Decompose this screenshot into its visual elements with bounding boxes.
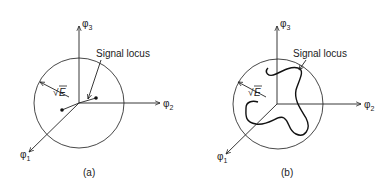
- signal-vector-1-a: [62, 103, 79, 110]
- svg-text:E: E: [254, 87, 261, 98]
- signal-vector-2-a: [79, 98, 96, 103]
- signal-locus-label-b: Signal locus: [293, 48, 347, 59]
- signal-point-2-a: [94, 96, 98, 100]
- phi1-label-a: φ1: [20, 149, 30, 162]
- caption-b: (b): [281, 167, 293, 178]
- sqrt-e-label-b: √ E: [248, 86, 262, 98]
- panel-b: φ3 φ2 φ1 Signal locus √ E (b): [217, 18, 374, 178]
- phi3-label-b: φ3: [280, 18, 290, 31]
- phi1-label-b: φ1: [217, 151, 227, 164]
- sqrt-e-label-a: √ E: [53, 86, 67, 98]
- signal-point-1-a: [60, 108, 64, 112]
- signal-space-figure: φ3 φ2 φ1 Signal locus √ E (a) φ3 φ2 φ1 S…: [0, 0, 391, 189]
- panel-a: φ3 φ2 φ1 Signal locus √ E (a): [20, 18, 173, 178]
- svg-text:E: E: [59, 87, 66, 98]
- signal-locus-label-a: Signal locus: [96, 48, 150, 59]
- caption-a: (a): [83, 167, 95, 178]
- locus-pointer-a: [88, 60, 101, 99]
- phi2-label-b: φ2: [364, 99, 374, 112]
- phi2-label-a: φ2: [163, 98, 173, 111]
- phi1-axis-a: [29, 103, 79, 152]
- phi3-label-a: φ3: [82, 18, 92, 31]
